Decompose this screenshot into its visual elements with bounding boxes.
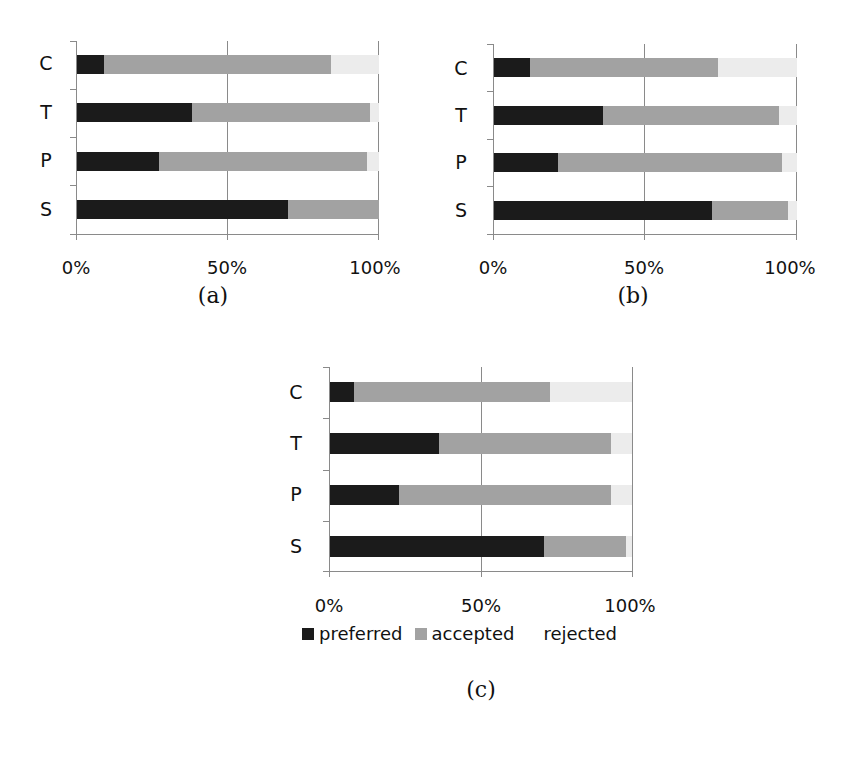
bar-segment-preferred	[494, 106, 603, 125]
category-label: T	[449, 104, 473, 126]
bar-S	[77, 200, 379, 219]
bar-segment-preferred	[330, 536, 544, 557]
bar-segment-accepted	[192, 103, 370, 122]
bar-segment-rejected	[331, 55, 379, 74]
x-tick	[493, 234, 494, 240]
caption-b: (b)	[617, 283, 648, 308]
bar-segment-accepted	[159, 152, 367, 171]
category-label: C	[34, 52, 58, 74]
x-axis	[487, 234, 797, 235]
bar-T	[494, 106, 797, 125]
legend-item-accepted: accepted	[415, 623, 515, 644]
bar-P	[494, 153, 797, 172]
category-label: T	[34, 101, 58, 123]
category-label: P	[284, 483, 308, 505]
caption-c: (c)	[466, 677, 496, 702]
y-tick	[323, 521, 329, 522]
y-tick	[487, 44, 493, 45]
bar-segment-preferred	[77, 200, 288, 219]
bar-segment-accepted	[399, 485, 610, 505]
bar-segment-rejected	[779, 106, 797, 125]
legend-swatch-preferred	[302, 628, 314, 640]
legend: preferred accepted rejected	[302, 623, 623, 644]
x-axis	[70, 234, 379, 235]
x-tick	[481, 571, 482, 577]
y-tick	[323, 470, 329, 471]
legend-item-rejected: rejected	[526, 623, 617, 644]
bar-segment-preferred	[494, 153, 558, 172]
category-label: C	[449, 57, 473, 79]
category-label: P	[34, 149, 58, 171]
y-tick	[70, 185, 76, 186]
y-tick	[70, 41, 76, 42]
bar-segment-rejected	[611, 433, 632, 454]
legend-label: rejected	[543, 623, 617, 644]
bar-segment-rejected	[718, 58, 797, 77]
x-tick-label: 50%	[207, 258, 247, 278]
bar-T	[77, 103, 379, 122]
x-tick-label: 0%	[62, 258, 91, 278]
bar-segment-accepted	[354, 382, 550, 402]
x-axis	[323, 571, 633, 572]
bar-segment-preferred	[77, 152, 159, 171]
bar-C	[77, 55, 379, 74]
bar-S	[494, 201, 797, 220]
x-tick	[76, 234, 77, 240]
y-tick	[487, 139, 493, 140]
bar-segment-preferred	[77, 55, 104, 74]
y-tick	[323, 367, 329, 368]
bar-segment-accepted	[712, 201, 788, 220]
y-tick	[70, 89, 76, 90]
bar-segment-accepted	[558, 153, 782, 172]
category-label: S	[284, 535, 308, 557]
bar-segment-rejected	[550, 382, 632, 402]
gridline-100	[632, 367, 633, 572]
x-tick	[796, 234, 797, 240]
bar-T	[330, 433, 632, 454]
x-tick	[632, 571, 633, 577]
x-tick-label: 50%	[624, 258, 664, 278]
bar-segment-rejected	[788, 201, 797, 220]
bar-segment-rejected	[782, 153, 797, 172]
y-tick	[323, 418, 329, 419]
x-tick-label: 100%	[349, 258, 400, 278]
legend-label: accepted	[432, 623, 515, 644]
bar-segment-preferred	[494, 58, 530, 77]
bar-segment-preferred	[494, 201, 712, 220]
x-tick	[644, 234, 645, 240]
category-label: C	[284, 381, 308, 403]
bar-P	[330, 485, 632, 505]
x-tick-label: 0%	[479, 258, 508, 278]
bar-segment-preferred	[330, 382, 354, 402]
bar-segment-rejected	[611, 485, 632, 505]
bar-C	[330, 382, 632, 402]
bar-segment-accepted	[288, 200, 379, 219]
bar-segment-accepted	[104, 55, 331, 74]
x-tick-label: 0%	[315, 596, 344, 616]
bar-segment-rejected	[626, 536, 632, 557]
caption-a: (a)	[198, 283, 228, 308]
x-tick	[329, 571, 330, 577]
bar-segment-accepted	[603, 106, 779, 125]
bar-segment-rejected	[367, 152, 379, 171]
category-label: S	[449, 199, 473, 221]
legend-label: preferred	[319, 623, 403, 644]
legend-swatch-accepted	[415, 628, 427, 640]
x-tick-label: 100%	[604, 596, 655, 616]
bar-segment-accepted	[530, 58, 718, 77]
bar-S	[330, 536, 632, 557]
bar-segment-preferred	[330, 485, 399, 505]
x-tick-label: 50%	[461, 596, 501, 616]
bar-P	[77, 152, 379, 171]
bar-segment-accepted	[439, 433, 611, 454]
y-tick	[70, 137, 76, 138]
x-tick	[227, 234, 228, 240]
y-tick	[487, 186, 493, 187]
bar-segment-accepted	[544, 536, 626, 557]
bar-segment-rejected	[370, 103, 379, 122]
y-tick	[487, 91, 493, 92]
bar-C	[494, 58, 797, 77]
x-tick	[378, 234, 379, 240]
legend-item-preferred: preferred	[302, 623, 403, 644]
category-label: T	[284, 432, 308, 454]
